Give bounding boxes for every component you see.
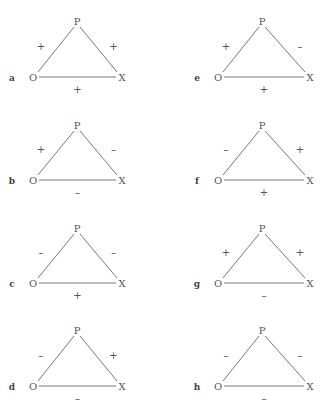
node-o: O bbox=[29, 381, 37, 392]
balance-triangles-diagram: POXa+++POXb+––POXc––+POXd–+–POXe+–+POXf–… bbox=[0, 0, 328, 404]
panel-label: e bbox=[194, 73, 200, 83]
sign-po: – bbox=[224, 350, 229, 361]
node-x: X bbox=[118, 175, 126, 186]
sign-px: + bbox=[296, 247, 304, 258]
node-x: X bbox=[306, 381, 314, 392]
sign-po: + bbox=[222, 247, 230, 258]
sign-px: + bbox=[109, 350, 117, 361]
sign-px: – bbox=[111, 144, 116, 155]
sign-ox: – bbox=[262, 393, 267, 404]
node-p: P bbox=[74, 16, 81, 27]
node-o: O bbox=[214, 381, 222, 392]
sign-ox: + bbox=[73, 84, 81, 95]
node-x: X bbox=[118, 381, 126, 392]
panel-label: b bbox=[9, 176, 15, 186]
sign-ox: + bbox=[260, 187, 268, 198]
sign-po: + bbox=[37, 144, 45, 155]
node-o: O bbox=[214, 72, 222, 83]
node-p: P bbox=[74, 223, 81, 234]
sign-px: – bbox=[111, 247, 116, 258]
sign-po: – bbox=[224, 144, 229, 155]
sign-px: + bbox=[109, 41, 117, 52]
node-x: X bbox=[306, 175, 314, 186]
sign-px: – bbox=[298, 41, 303, 52]
node-p: P bbox=[259, 120, 266, 131]
sign-ox: – bbox=[75, 187, 80, 198]
node-o: O bbox=[29, 278, 37, 289]
panel-label: g bbox=[194, 279, 201, 289]
node-p: P bbox=[259, 325, 266, 336]
sign-ox: – bbox=[75, 393, 80, 404]
sign-ox: + bbox=[73, 290, 81, 301]
panel-label: h bbox=[194, 382, 201, 392]
node-o: O bbox=[214, 175, 222, 186]
sign-po: – bbox=[39, 247, 44, 258]
sign-px: – bbox=[298, 350, 303, 361]
panel-label: c bbox=[9, 279, 15, 289]
node-o: O bbox=[214, 278, 222, 289]
node-o: O bbox=[29, 72, 37, 83]
sign-po: + bbox=[222, 41, 230, 52]
panel-label: a bbox=[9, 73, 15, 83]
node-p: P bbox=[74, 120, 81, 131]
node-x: X bbox=[118, 278, 126, 289]
sign-po: + bbox=[37, 41, 45, 52]
sign-px: + bbox=[296, 144, 304, 155]
sign-po: – bbox=[39, 350, 44, 361]
node-x: X bbox=[118, 72, 126, 83]
sign-ox: + bbox=[260, 84, 268, 95]
node-x: X bbox=[306, 278, 314, 289]
node-p: P bbox=[74, 325, 81, 336]
node-x: X bbox=[306, 72, 314, 83]
panel-label: f bbox=[195, 176, 200, 186]
node-p: P bbox=[259, 16, 266, 27]
panel-label: d bbox=[9, 382, 16, 392]
node-p: P bbox=[259, 223, 266, 234]
node-o: O bbox=[29, 175, 37, 186]
sign-ox: – bbox=[262, 290, 267, 301]
